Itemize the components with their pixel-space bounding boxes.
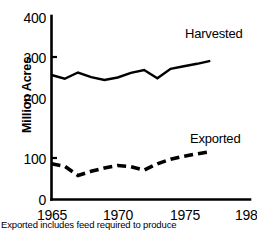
plot-area: [0, 0, 257, 233]
line-chart: Million Acres 400 300 200 100 0 1965 197…: [0, 0, 257, 233]
axis-group: [52, 16, 251, 200]
exported-line: [52, 152, 211, 176]
chart-footnote: Exported includes feed required to produ…: [1, 219, 176, 230]
harvested-line: [52, 61, 211, 80]
